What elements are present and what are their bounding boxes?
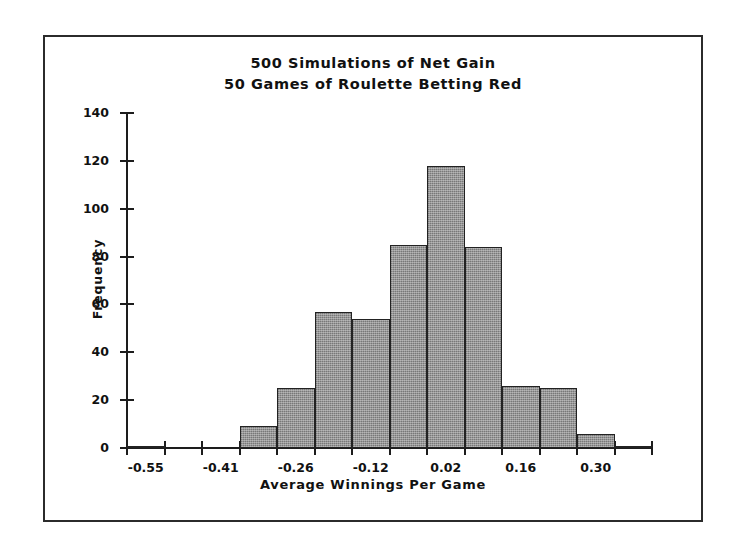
histogram-bar — [315, 312, 353, 448]
y-tick-label: 0 — [100, 440, 109, 455]
histogram-bar — [577, 434, 615, 448]
plot-area: 020406080100120140 -0.55-0.41-0.26-0.120… — [127, 113, 652, 448]
x-tick-label: -0.41 — [203, 460, 239, 475]
x-tick-label: -0.26 — [278, 460, 314, 475]
histogram-bar — [240, 426, 278, 448]
y-tick-mark: 140 — [120, 112, 134, 114]
y-tick-label: 20 — [92, 392, 109, 407]
y-tick-mark: 20 — [120, 399, 134, 401]
y-tick-mark: 80 — [120, 256, 134, 258]
x-tick-mark — [201, 441, 203, 455]
y-tick-mark: 60 — [120, 303, 134, 305]
histogram-bar — [540, 388, 578, 448]
y-tick-label: 100 — [83, 200, 109, 215]
histogram-bar — [465, 247, 503, 448]
y-tick-mark: 100 — [120, 208, 134, 210]
y-tick-mark: 40 — [120, 351, 134, 353]
x-tick-label: -0.55 — [128, 460, 164, 475]
y-tick-label: 80 — [92, 248, 109, 263]
histogram-bar — [427, 166, 465, 448]
histogram-bar — [390, 245, 428, 448]
x-tick-mark — [164, 441, 166, 455]
y-tick-label: 60 — [92, 296, 109, 311]
x-tick-mark — [126, 441, 128, 455]
x-tick-label: 0.30 — [580, 460, 611, 475]
histogram-bar — [352, 319, 390, 448]
x-axis-title: Average Winnings Per Game — [45, 477, 701, 492]
chart-title: 500 Simulations of Net Gain 50 Games of … — [45, 53, 701, 94]
x-tick-mark — [651, 441, 653, 455]
histogram-bar — [502, 386, 540, 448]
y-tick-label: 120 — [83, 152, 109, 167]
y-tick-label: 140 — [83, 105, 109, 120]
histogram-bar — [615, 446, 653, 448]
chart-frame: 500 Simulations of Net Gain 50 Games of … — [43, 35, 703, 522]
histogram-bar — [277, 388, 315, 448]
y-tick-label: 40 — [92, 344, 109, 359]
x-tick-label: 0.02 — [430, 460, 461, 475]
histogram-bar — [127, 446, 165, 448]
x-tick-label: 0.16 — [505, 460, 536, 475]
x-tick-label: -0.12 — [353, 460, 389, 475]
y-tick-mark: 120 — [120, 160, 134, 162]
